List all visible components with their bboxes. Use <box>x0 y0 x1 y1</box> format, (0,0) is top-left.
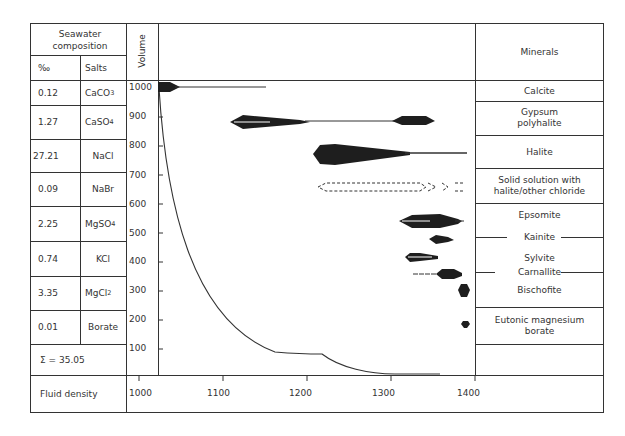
bischofite-band <box>458 284 470 297</box>
solid-solution-band <box>318 183 465 191</box>
evaporation-curve <box>159 88 440 374</box>
precipitation-plot <box>0 0 625 436</box>
carnallite-band <box>413 269 462 279</box>
volume-ticks <box>158 117 163 349</box>
gypsum-band <box>230 115 435 129</box>
sylvite-band <box>405 253 438 262</box>
kainite-band <box>429 235 454 244</box>
calcite-band <box>158 82 266 92</box>
halite-band <box>313 144 467 165</box>
epsomite-band <box>399 214 464 228</box>
density-ticks <box>139 375 475 381</box>
eutonic-borate-band <box>461 321 470 328</box>
